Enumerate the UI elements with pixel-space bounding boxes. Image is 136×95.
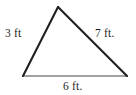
triangle-figure: 3 ft 7 ft. 6 ft. [0, 0, 136, 95]
left-side-length-label: 3 ft [5, 27, 21, 39]
triangle-right-edge [58, 7, 127, 76]
bottom-side-length-label: 6 ft. [63, 80, 83, 92]
triangle-left-edge [23, 7, 58, 76]
right-side-length-label: 7 ft. [95, 27, 115, 39]
